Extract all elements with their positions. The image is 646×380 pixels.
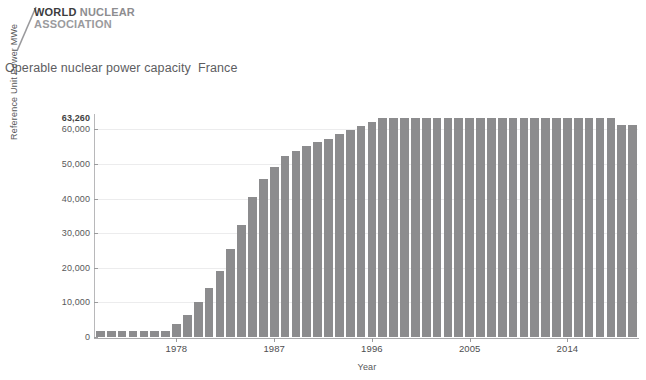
y-axis-tick-label: 30,000 — [34, 228, 90, 238]
y-axis-tick-label: 10,000 — [34, 297, 90, 307]
brand-logo-line-1: WORLD NUCLEAR — [34, 7, 135, 19]
bar — [357, 126, 366, 337]
x-axis-title-text: Year — [358, 362, 377, 372]
bar — [454, 118, 463, 337]
bar — [422, 118, 431, 337]
bar — [607, 118, 616, 337]
bar — [281, 156, 290, 337]
x-axis-title: Year — [0, 362, 646, 372]
y-axis-tick-mark — [94, 129, 98, 130]
bar — [161, 331, 170, 337]
bar — [237, 225, 246, 337]
bar — [150, 331, 159, 337]
y-axis-tick-label: 60,000 — [34, 124, 90, 134]
y-axis-tick-label: 20,000 — [34, 263, 90, 273]
y-axis-line — [94, 114, 95, 339]
y-axis-tick-mark — [94, 199, 98, 200]
bar — [498, 118, 507, 337]
bar — [107, 331, 116, 337]
bar — [400, 118, 409, 337]
bar — [476, 118, 485, 337]
bar — [444, 118, 453, 337]
bar — [585, 118, 594, 337]
bar — [628, 125, 637, 337]
brand-logo-line-2: ASSOCIATION — [34, 19, 135, 31]
bar — [324, 139, 333, 337]
bar — [596, 118, 605, 337]
bar — [433, 118, 442, 337]
brand-logo: WORLD NUCLEAR ASSOCIATION — [8, 4, 268, 54]
bar — [617, 125, 626, 337]
peak-value-annotation: 63,260 — [34, 113, 90, 123]
bar — [563, 118, 572, 337]
bar — [487, 118, 496, 337]
bar — [411, 118, 420, 337]
x-axis-tick-label: 2014 — [557, 343, 579, 354]
chart-title: Operable nuclear power capacity France — [5, 61, 238, 75]
x-axis-tick-mark — [567, 338, 568, 342]
bar — [552, 118, 561, 337]
bar — [129, 331, 138, 337]
brand-word-nuclear: NUCLEAR — [80, 6, 135, 18]
bar — [216, 271, 225, 337]
bar — [346, 130, 355, 337]
bar — [541, 118, 550, 337]
x-axis-tick-label: 1996 — [361, 343, 383, 354]
bar — [172, 324, 181, 338]
x-axis-tick-label: 1987 — [263, 343, 285, 354]
y-axis-title: Reference Unit Power MWe — [9, 0, 19, 140]
bar — [313, 142, 322, 337]
brand-logo-text: WORLD NUCLEAR ASSOCIATION — [34, 7, 135, 30]
x-axis-tick-mark — [274, 338, 275, 342]
bar-chart: 010,00020,00030,00040,00050,00060,00063,… — [0, 100, 646, 380]
y-axis-ticks: 010,00020,00030,00040,00050,00060,00063,… — [30, 100, 90, 360]
y-axis-tick-label: 0 — [34, 332, 90, 342]
bar — [205, 288, 214, 338]
bar — [194, 302, 203, 337]
bar — [520, 118, 529, 337]
y-axis-tick-mark — [94, 337, 98, 338]
bar — [118, 331, 127, 337]
y-axis-tick-mark — [94, 164, 98, 165]
y-axis-tick-mark — [94, 302, 98, 303]
bar — [389, 118, 398, 337]
x-axis-tick-mark — [470, 338, 471, 342]
y-axis-tick-mark — [94, 233, 98, 234]
bar — [302, 146, 311, 337]
y-axis-tick-mark — [94, 268, 98, 269]
bar — [378, 118, 387, 337]
bar — [368, 122, 377, 337]
bar — [248, 197, 257, 337]
x-axis-tick-mark — [372, 338, 373, 342]
bar — [292, 151, 301, 337]
bar — [509, 118, 518, 337]
plot-area — [95, 118, 638, 337]
y-axis-tick-label: 40,000 — [34, 194, 90, 204]
brand-word-world: WORLD — [34, 6, 77, 18]
bar — [226, 249, 235, 337]
bar — [465, 118, 474, 337]
bar — [335, 134, 344, 337]
x-axis-tick-label: 1978 — [166, 343, 188, 354]
bar — [270, 167, 279, 337]
x-axis-tick-mark — [176, 338, 177, 342]
bar — [530, 118, 539, 337]
bar — [140, 331, 149, 337]
x-axis-tick-label: 2005 — [459, 343, 481, 354]
bar — [259, 179, 268, 337]
y-axis-tick-label: 50,000 — [34, 159, 90, 169]
bar — [183, 315, 192, 338]
bar — [574, 118, 583, 337]
